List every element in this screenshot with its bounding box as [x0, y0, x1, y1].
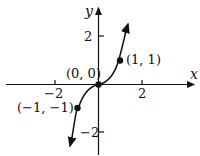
curve-arrow-down [70, 138, 72, 146]
x-axis-label: x [190, 66, 198, 82]
label-origin: (0, 0) [66, 66, 101, 81]
cubic-graph: −2 2 2 −2 x y (0, 0) (1, 1) (−1, −1) [0, 0, 200, 156]
plot-area: −2 2 2 −2 x y (0, 0) (1, 1) (−1, −1) [0, 0, 200, 156]
x-tick-label-neg2: −2 [44, 86, 63, 101]
label-1-1: (1, 1) [126, 52, 161, 67]
y-tick-label-2: 2 [84, 29, 92, 44]
point-1-1 [117, 57, 123, 63]
point-origin [95, 81, 101, 87]
y-axis-label: y [84, 3, 94, 19]
point-neg1-neg1 [74, 105, 80, 111]
y-tick-label-neg2: −2 [80, 125, 99, 140]
x-tick-label-2: 2 [138, 86, 146, 101]
label-neg1-neg1: (−1, −1) [17, 100, 74, 115]
curve-arrow-up [125, 24, 128, 34]
